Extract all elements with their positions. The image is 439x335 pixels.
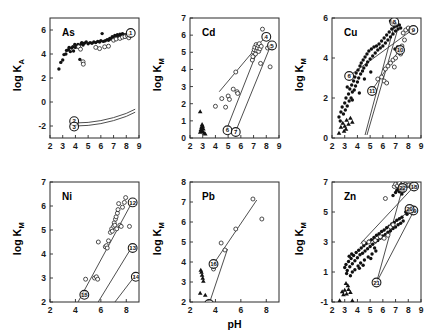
callout-marker-8: 8 — [390, 18, 399, 27]
data-point-filled-circle — [363, 77, 366, 80]
data-point-filled-circle — [345, 272, 348, 275]
data-point-open-circle — [96, 240, 100, 244]
data-point-filled-circle — [357, 76, 360, 79]
data-point-open-circle — [260, 217, 264, 221]
data-point-filled-circle — [384, 41, 387, 44]
plot-area: 4567 — [198, 27, 277, 136]
data-point-filled-triangle — [348, 116, 353, 120]
svg-text:M: M — [299, 58, 308, 64]
callout-marker-18: 18 — [410, 182, 419, 191]
callout-marker-22: 22 — [398, 184, 407, 193]
data-point-filled-circle — [350, 83, 353, 86]
x-tick-label: 6 — [238, 305, 243, 315]
data-point-filled-triangle — [350, 120, 355, 124]
callout-marker-5: 5 — [268, 41, 277, 50]
x-tick-label: 4 — [213, 141, 218, 151]
data-point-open-circle — [105, 246, 109, 250]
y-tick-label: 0 — [323, 133, 328, 143]
data-point-open-circle — [223, 248, 227, 252]
data-point-open-circle — [115, 227, 119, 231]
data-point-filled-circle — [391, 32, 394, 35]
plot-ni: 2468234567log KMNi12131415 — [10, 172, 147, 332]
svg-text:log K: log K — [151, 228, 163, 255]
data-point-filled-circle — [356, 256, 359, 259]
plot-cu: 234567890246log KMCu8910116 — [292, 8, 429, 168]
data-point-filled-circle — [357, 249, 360, 252]
x-tick-label: 6 — [238, 141, 243, 151]
plot-cd: 2345678901234567log KMCd4567 — [150, 8, 287, 168]
data-point-filled-circle — [358, 91, 361, 94]
data-point-open-circle — [268, 65, 272, 69]
data-point-filled-circle — [343, 266, 346, 269]
y-tick-label: 2 — [323, 93, 328, 103]
data-point-open-circle — [213, 104, 217, 108]
panel-as: 23456789-20246log KAAs123 — [10, 8, 147, 168]
data-point-filled-circle — [352, 79, 355, 82]
x-tick-label: 3 — [60, 141, 65, 151]
data-point-open-circle — [231, 87, 235, 91]
data-point-filled-triangle — [198, 109, 203, 113]
data-point-open-circle — [373, 239, 377, 243]
data-point-filled-triangle — [339, 125, 344, 129]
data-point-filled-circle — [368, 245, 371, 248]
data-point-filled-circle — [361, 252, 364, 255]
data-point-filled-circle — [389, 35, 392, 38]
data-point-filled-circle — [369, 257, 372, 260]
plot-area: 123 — [57, 29, 135, 131]
y-tick-label: 7 — [181, 13, 186, 23]
x-tick-label: 2 — [48, 305, 53, 315]
callout-label: 20 — [406, 206, 413, 212]
y-tick-label: 4 — [181, 64, 186, 74]
y-tick-label: 2 — [41, 297, 46, 307]
panel-cd: 2345678901234567log KMCd4567 — [150, 8, 287, 168]
data-point-open-circle — [106, 44, 110, 48]
data-point-open-circle — [394, 56, 398, 60]
y-axis-title: log KM — [11, 222, 26, 255]
y-tick-label: 3 — [181, 277, 186, 287]
data-point-filled-circle — [347, 99, 350, 102]
data-point-filled-circle — [69, 50, 72, 53]
y-tick-label: 3 — [323, 237, 328, 247]
data-point-filled-circle — [356, 80, 359, 83]
x-tick-label: 6 — [380, 305, 385, 315]
trend-curve — [74, 112, 135, 126]
callout-marker-6: 6 — [345, 72, 354, 81]
data-point-filled-circle — [374, 51, 377, 54]
callout-marker-11: 11 — [368, 87, 377, 96]
x-tick-label: 3 — [342, 305, 347, 315]
data-point-filled-circle — [381, 44, 384, 47]
callout-marker-6: 6 — [223, 126, 232, 135]
data-point-open-circle — [122, 200, 126, 204]
data-point-filled-circle — [361, 58, 364, 61]
data-point-filled-circle — [380, 39, 383, 42]
y-tick-label: 4 — [181, 257, 186, 267]
callout-label: 22 — [399, 185, 406, 191]
data-point-filled-triangle — [344, 291, 349, 295]
x-tick-label: 8 — [406, 141, 411, 151]
data-point-open-circle — [220, 97, 224, 101]
svg-text:M: M — [17, 222, 26, 228]
data-point-filled-circle — [373, 246, 376, 249]
data-point-filled-circle — [354, 251, 357, 254]
callout-label: 13 — [129, 245, 136, 251]
svg-text:log K: log K — [11, 64, 23, 91]
x-tick-label: 2 — [48, 141, 53, 151]
data-point-filled-circle — [347, 255, 350, 258]
data-point-filled-circle — [344, 108, 347, 111]
y-tick-label: 6 — [181, 217, 186, 227]
panel-title: Ni — [62, 191, 72, 202]
x-tick-label: 7 — [393, 141, 398, 151]
data-point-filled-circle — [402, 219, 405, 222]
plot-area: 1617 — [198, 197, 264, 308]
data-point-filled-circle — [366, 247, 369, 250]
data-point-filled-triangle — [337, 131, 342, 135]
data-point-filled-triangle — [337, 298, 342, 302]
y-tick-label: 6 — [181, 30, 186, 40]
y-axis-title: log KM — [293, 58, 308, 91]
x-tick-label: 8 — [264, 305, 269, 315]
data-point-open-circle — [378, 235, 382, 239]
data-point-filled-circle — [342, 112, 345, 115]
x-tick-label: 8 — [124, 305, 129, 315]
plot-as: 23456789-20246log KAAs123 — [10, 8, 147, 168]
plot-area: 12131415 — [74, 196, 140, 311]
